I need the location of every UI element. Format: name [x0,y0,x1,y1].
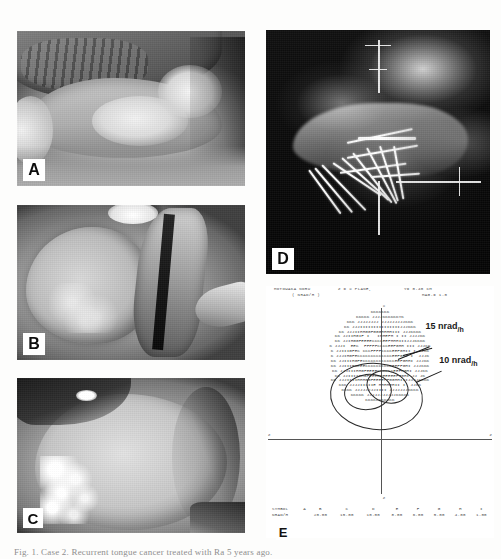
legend-value-cell: 10.00 [360,512,386,518]
axis-horizontal [268,439,492,440]
panel-c-clinical-photo: C [17,378,245,533]
annotation-15-nrad: 15 nrad/h [426,321,464,333]
figure-caption: Fig. 1. Case 2. Recurrent tongue cancer … [14,547,494,557]
legend-row-label-value: NRAD/H [272,512,302,518]
panel-label-c: C [23,508,43,528]
axis-label-z-left: Z [268,433,270,437]
legend-value-cell: 4.00 [450,512,471,518]
film-grain [17,378,245,533]
panel-label-a: A [23,159,45,181]
isodose-legend: SYMBOL ABCDEFGHI NRAD/H 20.0015.0010.008… [272,506,492,518]
panel-label-e: E [276,524,290,540]
panel-b-clinical-photo: B [17,205,245,360]
film-grain [17,205,245,360]
figure-page: A B C [0,0,501,559]
axis-label-x: X [383,304,385,308]
dose-unit-label: ( NRAD/H ) [274,292,364,298]
legend-value-cell: 6.00 [408,512,429,518]
panel-e-isodose-printout: MOTOWAKA NORUZ = X PLANE,Y= 0.40 CM ( NR… [266,286,494,538]
legend-table: SYMBOL ABCDEFGHI NRAD/H 20.0015.0010.008… [272,506,492,518]
legend-value-cell: 1.00 [471,512,492,518]
magnification-label: MAG.= 1.0 [364,292,447,298]
isodose-header: MOTOWAKA NORUZ = X PLANE,Y= 0.40 CM ( NR… [274,286,492,298]
legend-value-cell: 5.00 [429,512,450,518]
axis-label-z-bottom: Z [383,496,385,500]
legend-value-cell: 20.00 [307,512,333,518]
axis-label-z-right: Z [490,433,492,437]
panel-d-radiograph: D [266,30,490,274]
film-grain [266,30,490,274]
offset-label: Y= 0.40 CM [404,287,432,291]
annotation-10-nrad: 10 nrad/h [439,355,477,367]
legend-value-row: NRAD/H 20.0015.0010.008.006.005.004.001.… [272,512,492,518]
panel-label-d: D [272,248,294,270]
legend-value-cell: 15.00 [334,512,360,518]
legend-value-cell: 8.00 [386,512,407,518]
film-grain [17,31,245,186]
isodose-plot-area: X Z Z Z KKKKKKKKKKKK JJJJKKKKKKYKKKK JJJ… [266,306,494,496]
panel-label-b: B [23,333,45,355]
panel-a-clinical-photo: A [17,31,245,186]
